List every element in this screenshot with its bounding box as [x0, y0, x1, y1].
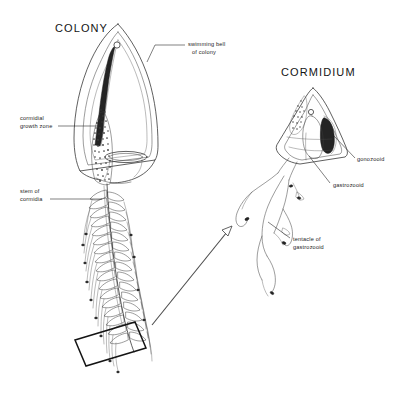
tentacle-thread-e [242, 192, 252, 209]
cormidium-title: CORMIDIUM [281, 66, 356, 78]
label-stem-of-cormidia-line2: cormidia [20, 196, 43, 202]
colony-title: COLONY [55, 22, 108, 34]
label-swimming-bell-line1: swimming bell [188, 41, 225, 47]
siphonophore-diagram: COLONY CORMIDIUM swimming bell of colony… [0, 0, 402, 397]
gastrozooid-aperture [308, 109, 313, 114]
magnification-arrow-shaft [152, 232, 227, 325]
label-cormidial-growth-zone-line2: growth zone [20, 123, 52, 129]
tentacle-main-left [236, 173, 278, 227]
label-cormidial-growth-zone: cormidial growth zone [20, 115, 52, 129]
label-tentacle-of-gastrozooid-line2: gastrozooid [293, 244, 324, 250]
detail-selection-box[interactable] [75, 322, 146, 366]
bell-mouth-ring-inner [110, 153, 143, 160]
label-tentacle-of-gastrozooid: tentacle of gastrozooid [293, 236, 324, 250]
tentacle-branch-b [283, 209, 293, 246]
bell-mouth-ring-outer [105, 151, 147, 162]
label-swimming-bell: swimming bell of colony [188, 41, 225, 55]
palpon-cluster-outline [290, 96, 307, 135]
label-stem-of-cormidia-line1: stem of [20, 188, 40, 194]
detail-selection-box-frame [75, 322, 146, 366]
apical-pore-circle [114, 42, 120, 48]
hydroid-head-b [282, 228, 290, 235]
stem-of-cormidia-group [82, 184, 153, 373]
tentacle-thread-g [262, 280, 268, 296]
cormidium-detail-group [276, 88, 347, 180]
figure-root: COLONY CORMIDIUM swimming bell of colony… [0, 0, 402, 397]
label-cormidial-growth-zone-line1: cormidial [20, 115, 44, 121]
label-gonozooid: gonozooid [357, 156, 384, 162]
cormidium-pedicel [278, 158, 289, 173]
tentacle-thread-f [274, 233, 283, 245]
magnification-arrow-head [222, 226, 232, 236]
tentacle-branch-a [274, 180, 289, 233]
label-tentacle-of-gastrozooid-line1: tentacle of [293, 236, 321, 242]
tentacle-branch-d [267, 256, 275, 292]
cormidium-pedicel-2 [289, 162, 297, 180]
tentacle-branch-c [257, 236, 262, 280]
gastrozooid-tentacles-group [236, 173, 304, 296]
label-gastrozooid: gastrozooid [333, 182, 364, 188]
stem-axis-shadow [104, 186, 122, 324]
cormidia-bracts-left [89, 190, 128, 344]
label-swimming-bell-line2: of colony [192, 49, 216, 55]
magnification-arrow [152, 226, 232, 325]
label-stem-of-cormidia: stem of cormidia [20, 188, 43, 202]
cormidium-bract-outline [276, 88, 347, 164]
colony-swimming-bell-group [74, 24, 158, 183]
leader-swimming-bell-tick [147, 45, 155, 62]
nectosac-canal [95, 46, 115, 146]
